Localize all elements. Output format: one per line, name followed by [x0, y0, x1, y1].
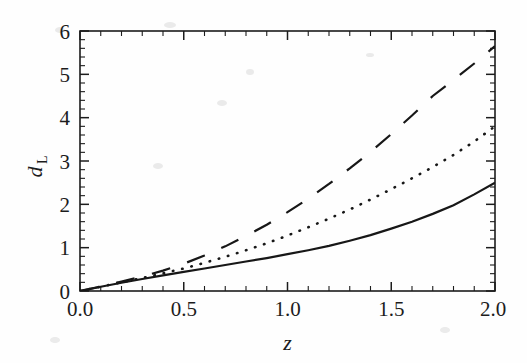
y-tick-label: 2	[60, 193, 71, 217]
x-axis-title: z	[282, 330, 292, 355]
y-axis-title-base: d	[22, 166, 47, 178]
y-tick-label: 3	[60, 150, 71, 174]
x-tick-label: 0.5	[171, 297, 197, 321]
y-axis-title-subscript: L	[35, 155, 50, 164]
y-tick-label: 5	[60, 63, 71, 87]
x-tick-label: 1.0	[274, 297, 300, 321]
luminosity-distance-plot: 0.0 0.5 1.0 1.5 2.0 0 1 2 3 4 5 6 d L z	[0, 0, 527, 363]
y-tick-label: 1	[60, 236, 71, 260]
y-tick-label: 0	[60, 280, 71, 304]
x-tick-label: 2.0	[480, 297, 506, 321]
y-tick-label: 4	[60, 106, 71, 130]
figure-canvas: 0.0 0.5 1.0 1.5 2.0 0 1 2 3 4 5 6 d L z	[0, 0, 527, 363]
x-tick-label: 1.5	[378, 297, 404, 321]
x-tick-label: 0.0	[67, 297, 93, 321]
y-tick-label: 6	[60, 20, 71, 44]
